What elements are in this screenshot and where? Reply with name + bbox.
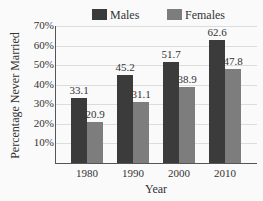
y-axis: [55, 26, 56, 163]
x-tick-label: 1990: [113, 168, 153, 179]
value-label: 38.9: [172, 74, 202, 85]
x-tick-label: 2000: [159, 168, 199, 179]
y-tick-label: 30%: [20, 98, 54, 109]
y-tick-label: 40%: [20, 79, 54, 90]
bar-females-1990: [133, 102, 149, 163]
value-label: 62.6: [202, 27, 232, 38]
y-tick-label: 60%: [20, 40, 54, 51]
legend-label-females: Females: [185, 9, 225, 21]
legend-label-males: Males: [110, 9, 139, 21]
value-label: 47.8: [218, 56, 248, 67]
y-axis-label: Percentage Never Married: [8, 31, 23, 161]
y-tick-label: 70%: [20, 20, 54, 31]
x-tick-label: 2010: [205, 168, 245, 179]
bar-females-1980: [87, 122, 103, 163]
x-axis: [55, 163, 257, 164]
value-label: 51.7: [156, 49, 186, 60]
value-label: 45.2: [110, 62, 140, 73]
x-tick-label: 1980: [67, 168, 107, 179]
legend-swatch-females: [167, 9, 182, 20]
y-tick-label: 10%: [20, 137, 54, 148]
value-label: 33.1: [64, 85, 94, 96]
value-label: 20.9: [80, 109, 110, 120]
y-tick-label: 50%: [20, 59, 54, 70]
y-tick-label: 20%: [20, 118, 54, 129]
gridline: [55, 46, 257, 47]
value-label: 31.1: [126, 89, 156, 100]
bar-females-2010: [225, 69, 241, 163]
bar-females-2000: [179, 87, 195, 163]
legend-swatch-males: [92, 9, 107, 20]
x-axis-label: Year: [136, 182, 176, 197]
